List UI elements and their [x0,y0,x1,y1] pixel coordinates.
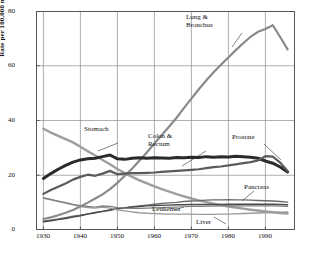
annotation-lung-l2: Bronchus [186,22,213,30]
annotation-pancreas: Pancreas [244,184,269,192]
annotation-stomach: Stomach [84,126,109,134]
annotation-liver: Liver [196,219,211,227]
annotation-leukemia: Leukemia [152,206,180,214]
x-tick-1940: 1940 [65,233,95,240]
x-tick-1990: 1990 [250,233,280,240]
x-tick-1930: 1930 [28,233,58,240]
cancer-death-rate-chart: Rate per 100,000 male population 80 60 4… [0,0,310,253]
x-tick-1960: 1960 [139,233,169,240]
leader-stomach [98,143,118,151]
leader-liver [214,217,226,224]
y-tick-60: 60 [0,62,15,69]
y-tick-0: 0 [0,226,15,233]
plot-area [36,11,295,230]
y-tick-40: 40 [0,117,15,124]
y-tick-20: 20 [0,172,15,179]
x-tick-1950: 1950 [102,233,132,240]
annotation-colon-l2: Rectum [148,141,170,149]
chart-svg [36,11,295,230]
annotation-prostate: Prostate [232,134,255,142]
x-tick-1980: 1980 [213,233,243,240]
y-tick-80: 80 [0,8,15,15]
x-tick-1970: 1970 [176,233,206,240]
